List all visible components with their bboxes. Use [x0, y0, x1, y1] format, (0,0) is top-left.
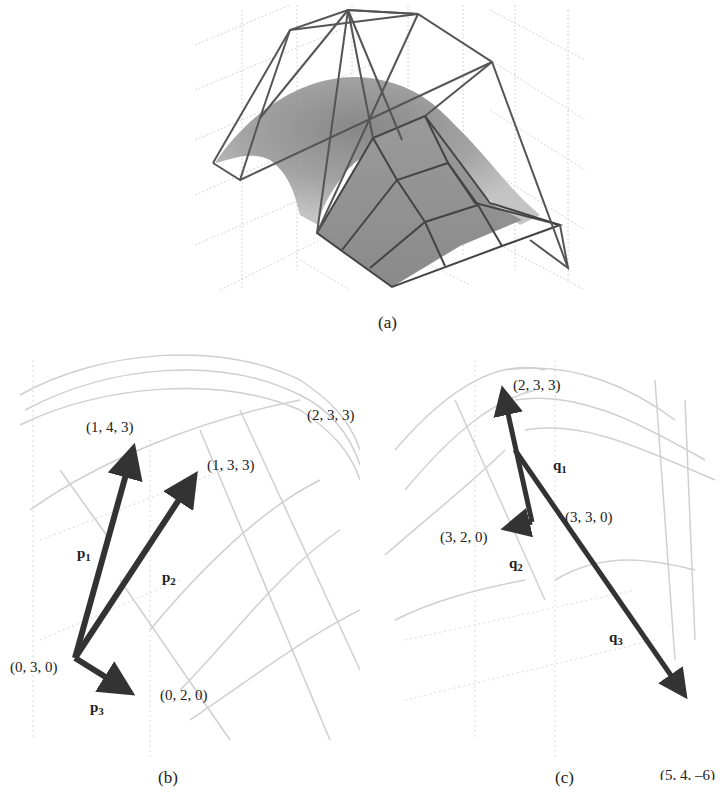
panel-b-diagram: (1, 4, 3) (1, 3, 3) (0, 2, 0) (2, 3, 3) …: [0, 340, 360, 780]
point-label-5-4-neg6: (5, 4, –6): [660, 767, 715, 780]
point-label-2-3-3: (2, 3, 3): [513, 377, 561, 394]
caption-c: (c): [555, 768, 574, 788]
vectors-q: [505, 400, 679, 687]
vector-q3: [515, 450, 679, 687]
vector-label-q3: q3: [609, 629, 623, 647]
caption-b: (b): [158, 768, 178, 788]
point-label-0-2-0: (0, 2, 0): [160, 687, 208, 704]
vector-label-p2: p2: [162, 569, 176, 587]
origin-label-3-3-0: (3, 3, 0): [565, 509, 613, 526]
origin-label-0-3-0: (0, 3, 0): [10, 659, 58, 676]
point-label-1-4-3: (1, 4, 3): [86, 419, 134, 436]
faint-wireframe: [385, 368, 715, 660]
vector-p3: [75, 658, 120, 686]
vector-p2: [75, 486, 188, 658]
panel-b: (1, 4, 3) (1, 3, 3) (0, 2, 0) (2, 3, 3) …: [0, 340, 360, 780]
point-label-1-3-3: (1, 3, 3): [207, 457, 255, 474]
panel-a: [190, 0, 590, 320]
vector-q1: [505, 400, 532, 522]
panel-c: (2, 3, 3) (3, 2, 0) (5, 4, –6) (3, 3, 0)…: [375, 340, 726, 780]
point-label-2-3-3: (2, 3, 3): [307, 407, 355, 424]
vector-label-p1: p1: [77, 545, 91, 563]
point-label-3-2-0: (3, 2, 0): [440, 529, 488, 546]
vector-label-q1: q1: [553, 457, 567, 475]
vector-label-p3: p3: [90, 699, 104, 717]
caption-a: (a): [378, 313, 397, 333]
panel-c-diagram: (2, 3, 3) (3, 2, 0) (5, 4, –6) (3, 3, 0)…: [375, 340, 726, 780]
vector-label-q2: q2: [509, 555, 523, 573]
vector-q2: [515, 522, 532, 526]
surface-with-control-net: [190, 0, 590, 320]
